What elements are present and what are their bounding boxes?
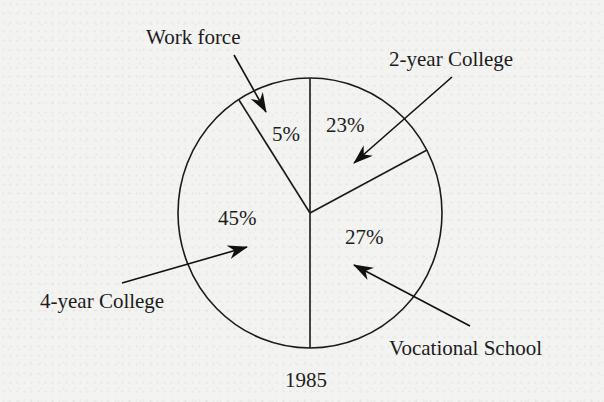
divider-upper-right — [310, 150, 427, 213]
label-work-force: Work force — [146, 27, 241, 48]
divider-upper-left — [239, 100, 310, 213]
label-vocational-school: Vocational School — [389, 338, 542, 359]
label-four-year-college: 4-year College — [40, 291, 164, 312]
value-two-year-college: 23% — [326, 115, 365, 136]
label-two-year-college: 2-year College — [389, 49, 513, 70]
chart-year-caption: 1985 — [285, 370, 327, 391]
arrow-work-force-icon — [234, 55, 266, 112]
arrow-two-year-icon — [354, 77, 452, 163]
value-vocational-school: 27% — [345, 227, 384, 248]
pie-chart-figure: Work force 2-year College 4-year College… — [0, 0, 604, 402]
arrow-vocational-icon — [354, 265, 470, 326]
value-work-force: 5% — [272, 124, 300, 145]
value-four-year-college: 45% — [218, 208, 257, 229]
